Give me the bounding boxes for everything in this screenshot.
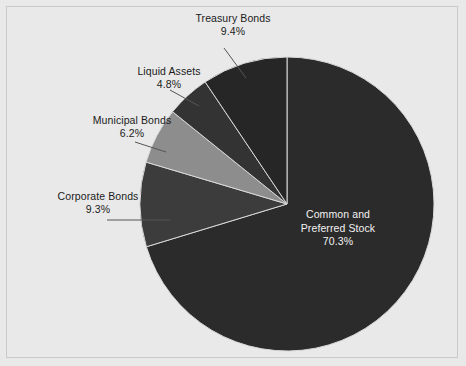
slice-label-corporate-bonds-name: Corporate Bonds <box>58 190 139 202</box>
slice-label-common-and-preferred-stock: Common and Preferred Stock 70.3% <box>276 208 400 249</box>
slice-label-municipal-bonds-name: Municipal Bonds <box>93 114 172 126</box>
slice-label-corporate-bonds-value: 9.3% <box>24 203 172 216</box>
slice-label-treasury-bonds-name: Treasury Bonds <box>195 12 270 24</box>
slice-label-municipal-bonds: Municipal Bonds 6.2% <box>62 114 202 140</box>
pie-chart-figure: Treasury Bonds 9.4% Liquid Assets 4.8% M… <box>0 0 466 366</box>
slice-label-liquid-assets: Liquid Assets 4.8% <box>106 65 232 91</box>
slice-label-municipal-bonds-value: 6.2% <box>62 127 202 140</box>
pie-chart-canvas <box>0 0 466 366</box>
slice-label-liquid-assets-name: Liquid Assets <box>137 65 200 77</box>
slice-label-treasury-bonds: Treasury Bonds 9.4% <box>163 12 303 38</box>
slice-label-corporate-bonds: Corporate Bonds 9.3% <box>24 190 172 216</box>
pie-slices <box>140 57 434 351</box>
slice-label-common-and-preferred-stock-line2: Preferred Stock <box>301 222 375 234</box>
slice-label-common-and-preferred-stock-line1: Common and <box>306 208 370 220</box>
slice-label-liquid-assets-value: 4.8% <box>106 78 232 91</box>
slice-label-treasury-bonds-value: 9.4% <box>163 25 303 38</box>
slice-label-common-and-preferred-stock-value: 70.3% <box>323 235 353 247</box>
